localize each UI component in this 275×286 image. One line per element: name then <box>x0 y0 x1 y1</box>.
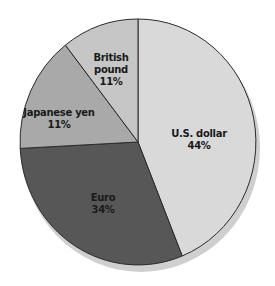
pie-chart <box>0 0 275 286</box>
label-name: British <box>93 52 128 64</box>
label-percent: 11% <box>23 119 94 131</box>
label-percent: 34% <box>91 204 116 216</box>
label-japanese-yen: Japanese yen 11% <box>23 107 94 131</box>
label-british-pound: British pound 11% <box>93 52 128 88</box>
label-percent: 11% <box>93 76 128 88</box>
label-percent: 44% <box>171 140 227 152</box>
label-name: U.S. dollar <box>171 128 227 140</box>
label-name: Euro <box>91 192 116 204</box>
label-name: Japanese yen <box>23 107 94 119</box>
label-us-dollar: U.S. dollar 44% <box>171 128 227 152</box>
label-name-2: pound <box>93 64 128 76</box>
label-euro: Euro 34% <box>91 192 116 216</box>
